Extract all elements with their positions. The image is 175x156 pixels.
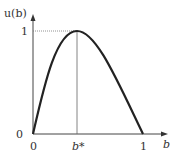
x-tick-bstar: b* <box>72 140 85 153</box>
x-axis-label: b <box>163 138 170 151</box>
chart-figure: u(b) 1 0 0 b* 1 b <box>0 0 175 156</box>
y-tick-one: 1 <box>21 25 28 38</box>
x-tick-zero: 0 <box>30 140 37 153</box>
x-axis-arrow-icon <box>161 132 168 137</box>
u-curve <box>33 31 143 134</box>
x-tick-one: 1 <box>140 140 147 153</box>
y-tick-zero: 0 <box>16 128 23 141</box>
y-axis-arrow-icon <box>31 14 36 21</box>
y-axis-label: u(b) <box>4 7 27 20</box>
